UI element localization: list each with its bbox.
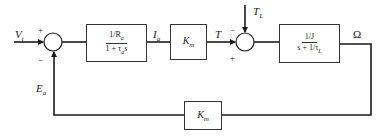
load-torque-label: TL — [253, 6, 263, 20]
mechanical-numerator: 1/J — [302, 33, 317, 44]
mechanical-transfer-block: 1/J s + 1/τL — [279, 24, 340, 63]
sum2-minus-sign: − — [230, 26, 235, 35]
torque-constant-gain: Km — [183, 35, 195, 49]
armature-current-label: Ia — [153, 29, 160, 43]
output-speed-label: Ω — [353, 29, 361, 40]
block-diagram: Vt + − 1/Ra 1 + τas Ia Km T − + TL 1/J s… — [0, 0, 384, 137]
sum1-minus-sign: − — [38, 56, 43, 65]
armature-fraction: 1/Ra 1 + τas — [106, 31, 128, 54]
mechanical-fraction: 1/J s + 1/τL — [297, 33, 321, 55]
input-voltage-label: Vt — [15, 29, 24, 43]
sum1-plus-sign: + — [38, 26, 43, 35]
back-emf-label: Ea — [36, 83, 46, 97]
summing-junction-1 — [44, 33, 62, 51]
armature-denominator: 1 + τas — [106, 44, 128, 55]
torque-constant-block: Km — [170, 24, 207, 60]
sum2-plus-sign: + — [230, 54, 235, 63]
back-emf-constant-gain: Km — [197, 109, 209, 123]
armature-numerator: 1/Ra — [106, 31, 127, 43]
summing-junction-2 — [236, 33, 254, 51]
mechanical-denominator: s + 1/τL — [297, 43, 321, 54]
torque-label: T — [215, 29, 221, 40]
back-emf-constant-block: Km — [184, 101, 222, 130]
armature-transfer-block: 1/Ra 1 + τas — [86, 24, 147, 62]
